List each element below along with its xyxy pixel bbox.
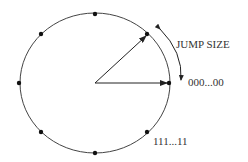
point-nw (39, 32, 43, 36)
jump-size-arc-arrow (160, 29, 181, 80)
vector-jump-arrow (95, 36, 146, 83)
point-bottom (93, 151, 97, 155)
point-ne (145, 32, 149, 36)
ones-label: 111...11 (153, 135, 188, 147)
jump-size-label: JUMP SIZE (176, 38, 230, 50)
point-left (17, 81, 21, 85)
point-right (167, 81, 171, 85)
point-sw (39, 130, 43, 134)
phase-wheel-diagram: JUMP SIZE 000...00 111...11 (0, 0, 248, 162)
zero-label: 000...00 (188, 76, 224, 88)
point-se (145, 130, 149, 134)
point-top (93, 12, 97, 16)
